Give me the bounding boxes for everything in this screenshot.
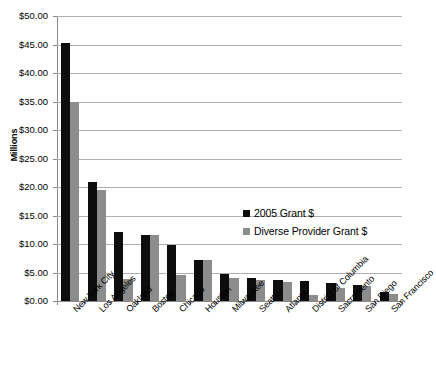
legend-label-series-1: Diverse Provider Grant $ [254, 225, 367, 238]
bar-1 [70, 102, 79, 302]
y-axis-tick-label: $45.00 [19, 40, 48, 50]
bar-group [163, 16, 190, 301]
bar-group [216, 16, 243, 301]
y-axis-tick-label: $25.00 [19, 154, 48, 164]
x-axis-category-labels: New York CityLos AngelesOaklandBostonChi… [0, 300, 404, 391]
bar-group [57, 16, 84, 301]
legend-item-series-0: 2005 Grant $ [243, 207, 393, 220]
bars-layer [57, 16, 402, 301]
y-axis-tick-label: $30.00 [19, 125, 48, 135]
y-axis-tick-label: $35.00 [19, 97, 48, 107]
legend-swatch-icon-series-0 [243, 210, 250, 217]
y-axis-tick-label: $50.00 [19, 11, 48, 21]
bar-group [322, 16, 349, 301]
bar-group [84, 16, 111, 301]
legend-item-series-1: Diverse Provider Grant $ [243, 225, 393, 238]
bar-group [269, 16, 296, 301]
bar-group [110, 16, 137, 301]
bar-0 [61, 43, 70, 301]
chart-legend: 2005 Grant $ Diverse Provider Grant $ [243, 207, 393, 242]
y-axis-tick-label: $10.00 [19, 239, 48, 249]
y-axis-tick-label: $20.00 [19, 182, 48, 192]
plot-area [57, 16, 402, 301]
bar-1 [176, 275, 185, 301]
y-axis-tick-label: $40.00 [19, 68, 48, 78]
legend-label-series-0: 2005 Grant $ [254, 207, 314, 220]
bar-group [375, 16, 402, 301]
bar-group [296, 16, 323, 301]
bar-1 [203, 260, 212, 301]
bar-group [137, 16, 164, 301]
y-axis-tick-label: $15.00 [19, 211, 48, 221]
y-axis-tick-label: $5.00 [24, 268, 48, 278]
bar-group [190, 16, 217, 301]
legend-swatch-icon-series-1 [243, 228, 250, 235]
bar-group [243, 16, 270, 301]
